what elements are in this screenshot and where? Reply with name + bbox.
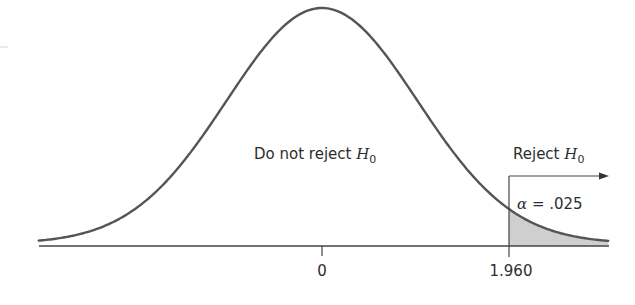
tick-label-zero: 0	[317, 262, 327, 280]
do-not-reject-label: Do not reject H0	[254, 145, 376, 166]
reject-label: Reject H0	[513, 145, 584, 166]
alpha-label: α = .025	[517, 195, 583, 213]
reject-arrow-head-icon	[599, 173, 609, 180]
normal-distribution-chart: Do not reject H0 Reject H0 α = .025 0 1.…	[0, 0, 635, 305]
tick-label-critical: 1.960	[490, 262, 533, 280]
